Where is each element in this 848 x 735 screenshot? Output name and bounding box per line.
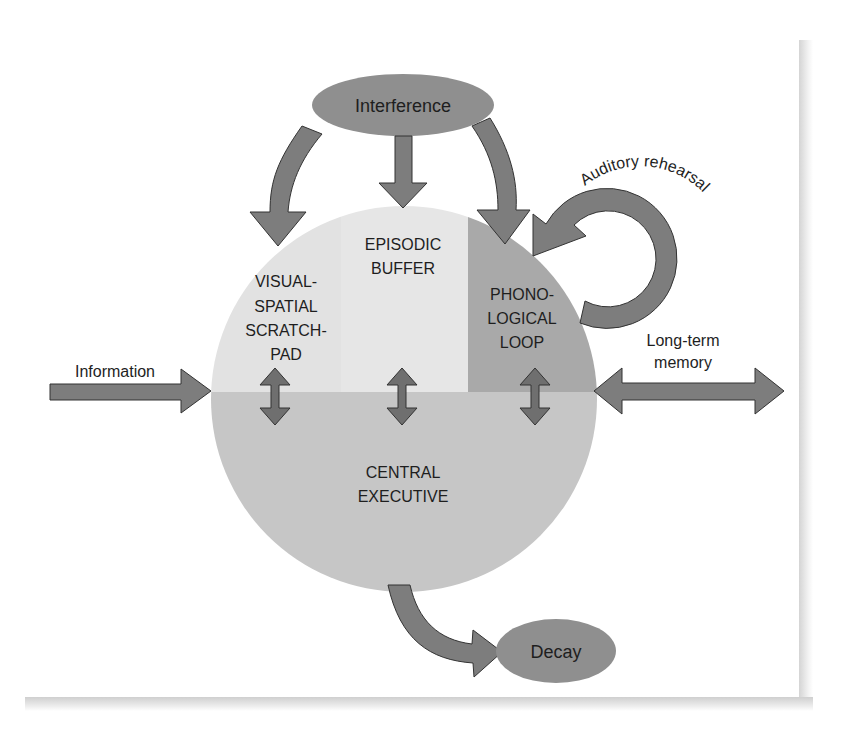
- interference-arrow-center: [379, 136, 427, 208]
- decay-label: Decay: [530, 642, 581, 662]
- svg-text:SCRATCH-: SCRATCH-: [245, 322, 326, 339]
- auditory-rehearsal-label: Auditory rehearsal: [577, 152, 713, 195]
- svg-text:CENTRAL: CENTRAL: [366, 464, 441, 481]
- interference-arrow-left: [250, 126, 322, 246]
- svg-text:LOOP: LOOP: [500, 334, 544, 351]
- svg-text:EPISODIC: EPISODIC: [365, 236, 441, 253]
- svg-text:EXECUTIVE: EXECUTIVE: [358, 488, 449, 505]
- svg-text:LOGICAL: LOGICAL: [487, 310, 556, 327]
- long-term-memory-double-arrow: [594, 368, 784, 414]
- svg-text:BUFFER: BUFFER: [371, 260, 435, 277]
- interference-label: Interference: [355, 96, 451, 116]
- information-label: Information: [75, 363, 155, 380]
- working-memory-diagram: Interference Decay VISUAL- SPATIAL SCRAT…: [0, 0, 848, 735]
- decay-arrow: [388, 585, 502, 677]
- episodic-buffer-region: [341, 200, 468, 392]
- svg-text:memory: memory: [654, 354, 712, 371]
- svg-text:PAD: PAD: [270, 346, 302, 363]
- svg-text:VISUAL-: VISUAL-: [255, 273, 317, 290]
- long-term-memory-label: Long-term memory: [647, 332, 720, 371]
- svg-text:Long-term: Long-term: [647, 332, 720, 349]
- svg-text:PHONO-: PHONO-: [490, 286, 554, 303]
- svg-text:SPATIAL: SPATIAL: [254, 298, 318, 315]
